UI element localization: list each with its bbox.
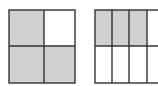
rectangle-fraction-figure [95,10,158,83]
unshaded-cell [44,10,75,46]
square-fraction-figure [9,10,75,83]
shaded-cell [44,46,75,83]
shaded-cells [95,10,147,46]
shaded-cell [9,10,44,46]
shaded-cell [9,46,44,83]
fraction-diagrams [0,0,158,86]
